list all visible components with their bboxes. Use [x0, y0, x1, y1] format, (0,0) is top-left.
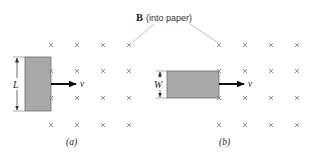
velocity-label-a: v	[80, 79, 85, 89]
leader-line-right	[190, 24, 217, 42]
velocity-label-b: v	[248, 79, 253, 89]
panel-caption-b: (b)	[219, 137, 230, 148]
field-symbol: B	[136, 12, 143, 23]
field-description: (into paper)	[146, 13, 192, 23]
magnetic-field-label: B (into paper)	[133, 12, 217, 42]
conducting-loop-b	[167, 71, 219, 98]
panel-b: W v (b)	[154, 43, 299, 148]
diagram-canvas: B (into paper) L v (a) W v (b)	[0, 0, 312, 157]
length-label: L	[12, 79, 19, 90]
panel-caption-a: (a)	[66, 137, 77, 148]
leader-line-left	[133, 24, 154, 42]
panel-a: L v (a)	[12, 43, 131, 148]
conducting-loop-a	[25, 57, 51, 111]
